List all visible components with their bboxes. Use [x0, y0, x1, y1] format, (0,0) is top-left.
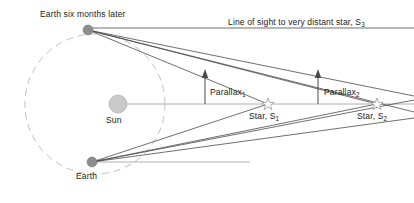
label-star-s2: Star, S2 [357, 112, 387, 121]
sun-circle [109, 95, 127, 113]
sightline-top-earth-extended [88, 30, 414, 112]
earth-top-dot [83, 25, 93, 35]
earth-bottom-dot [87, 157, 97, 167]
label-earth-six-months-later: Earth six months later [40, 10, 126, 19]
label-parallax-1: Parallax1 [210, 88, 246, 97]
label-parallax-1-text: Parallax [210, 87, 242, 97]
label-star-s2-text: Star, S [357, 111, 384, 121]
label-earth: Earth [76, 172, 97, 181]
label-star-s1: Star, S1 [249, 112, 279, 121]
label-star-s1-subscript: 1 [276, 115, 280, 122]
parallax-2-arrow-head [315, 69, 321, 78]
label-sun: Sun [106, 116, 122, 125]
label-star-s2-subscript: 2 [384, 115, 388, 122]
label-line-of-sight-text: Line of sight to very distant star, S [228, 17, 361, 27]
label-parallax-2: Parallax2 [324, 88, 360, 97]
parallax-diagram: Earth six months later Line of sight to … [0, 0, 414, 203]
sightline-bottom-earth-lower [92, 118, 414, 162]
sightline-top-earth-upper [88, 30, 414, 96]
label-parallax-2-subscript: 2 [356, 91, 360, 98]
diagram-canvas [0, 0, 414, 203]
parallax-1-arrow-head [202, 69, 208, 78]
label-line-of-sight-subscript: 3 [361, 21, 365, 28]
label-star-s1-text: Star, S [249, 111, 276, 121]
label-line-of-sight-distant-star: Line of sight to very distant star, S3 [228, 18, 365, 27]
sightline-bottom-earth-to-s2 [92, 104, 377, 162]
label-parallax-2-text: Parallax [324, 87, 356, 97]
label-parallax-1-subscript: 1 [242, 91, 246, 98]
star-s1-icon [262, 98, 274, 110]
